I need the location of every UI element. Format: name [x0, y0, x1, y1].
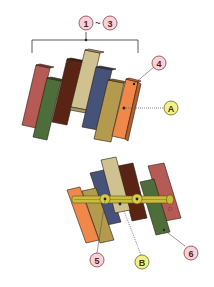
svg-text:4: 4	[156, 59, 161, 69]
svg-text:~: ~	[95, 18, 100, 28]
svg-text:1: 1	[83, 19, 88, 29]
svg-text:6: 6	[188, 249, 193, 259]
slat-assembly-diagram: 1 ~ 3 4	[0, 0, 214, 287]
upper-slat-group	[22, 49, 141, 142]
svg-text:5: 5	[94, 256, 99, 266]
svg-text:A: A	[168, 104, 175, 114]
svg-text:3: 3	[107, 19, 112, 29]
callout-6: 6	[163, 229, 198, 260]
svg-text:B: B	[139, 258, 146, 268]
callout-4: 4	[133, 56, 166, 85]
callout-1-3: 1 ~ 3	[79, 16, 117, 30]
